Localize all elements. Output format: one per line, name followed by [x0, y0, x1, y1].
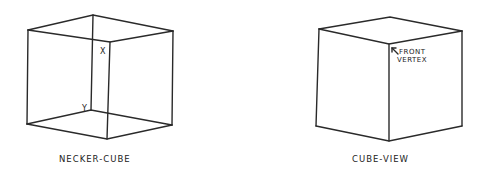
front-vertex-annotation-line2: VERTEX: [397, 56, 427, 64]
necker-cube-caption: NECKER-CUBE: [59, 154, 131, 164]
front-vertex-annotation-line1: FRONT: [399, 48, 426, 56]
vertex-label-x: X: [100, 47, 106, 56]
cube-view-figure: FRONT VERTEX CUBE-VIEW: [316, 17, 462, 164]
necker-cube-figure: X Y NECKER-CUBE: [27, 15, 173, 164]
diagram-canvas: X Y NECKER-CUBE FRONT VERTEX CUBE-VIEW: [0, 0, 491, 177]
front-vertex-arrow-icon: [392, 48, 398, 54]
cube-view-caption: CUBE-VIEW: [352, 154, 409, 164]
vertex-label-y: Y: [81, 104, 87, 113]
